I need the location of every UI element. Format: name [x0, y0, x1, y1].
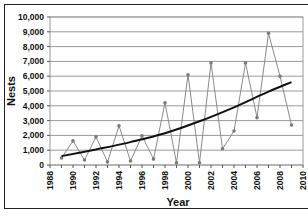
data-point-marker: [163, 101, 167, 105]
x-tick-label: 1990: [68, 171, 78, 190]
data-point-marker: [71, 139, 75, 143]
x-tick-label: 1988: [45, 171, 55, 190]
y-tick-label: 6,000: [23, 71, 45, 81]
data-point-marker: [244, 61, 248, 65]
x-tick-label: 2002: [206, 171, 216, 190]
data-point-marker: [175, 161, 179, 165]
data-point-marker: [267, 31, 271, 35]
y-axis-title: Nests: [5, 76, 17, 106]
x-tick-label: 1994: [114, 171, 124, 190]
data-point-marker: [221, 147, 225, 151]
y-tick-label: 3,000: [23, 116, 45, 126]
data-point-marker: [83, 158, 87, 162]
data-point-marker: [278, 74, 282, 78]
data-point-marker: [186, 73, 190, 77]
y-tick-label: 8,000: [23, 42, 45, 52]
data-point-marker: [152, 157, 156, 161]
y-tick-label: 0: [39, 160, 44, 170]
y-tick-label: 1,000: [23, 145, 45, 155]
data-point-marker: [232, 129, 236, 133]
x-tick-label: 1992: [91, 171, 101, 190]
nests-line: [62, 33, 292, 163]
x-tick-label: 1996: [137, 171, 147, 190]
y-tick-label: 2,000: [23, 130, 45, 140]
x-tick-label: 2004: [229, 171, 239, 190]
y-axis-tick-labels: 01,0002,0003,0004,0005,0006,0007,0008,00…: [18, 12, 44, 170]
x-tick-label: 2006: [252, 171, 262, 190]
data-point-marker: [106, 160, 110, 164]
y-tick-label: 10,000: [18, 12, 44, 22]
x-tick-label: 2000: [183, 171, 193, 190]
data-point-marker: [290, 123, 294, 127]
y-tick-label: 9,000: [23, 27, 45, 37]
data-point-marker: [94, 135, 98, 139]
data-point-marker: [140, 134, 144, 138]
data-point-marker: [255, 116, 259, 120]
data-point-marker: [209, 61, 213, 65]
x-axis-tick-labels: 1988199019921994199619982000200220042006…: [45, 171, 308, 190]
data-point-marker: [117, 124, 121, 128]
x-tick-label: 1998: [160, 171, 170, 190]
y-tick-label: 4,000: [23, 101, 45, 111]
nests-series: [60, 31, 294, 164]
x-axis-title: Year: [166, 196, 190, 208]
x-tick-label: 2008: [275, 171, 285, 190]
nests-line-chart: 01,0002,0003,0004,0005,0006,0007,0008,00…: [0, 0, 308, 217]
data-point-marker: [198, 161, 202, 165]
x-tick-label: 2010: [298, 171, 308, 190]
y-tick-label: 5,000: [23, 86, 45, 96]
data-point-marker: [129, 159, 133, 163]
y-tick-label: 7,000: [23, 56, 45, 66]
